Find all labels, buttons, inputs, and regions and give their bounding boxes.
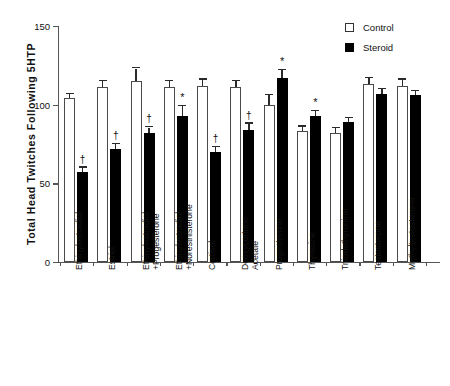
- error-bar-cap: [265, 94, 273, 95]
- error-bar: [102, 81, 103, 87]
- error-bar-cap: [199, 78, 207, 79]
- error-bar-cap: [278, 69, 286, 70]
- category-label: Triiodothyronine: [341, 209, 351, 270]
- x-tick-mark: [393, 262, 394, 266]
- category-label: Estriol: [108, 246, 118, 270]
- error-bar-cap: [145, 126, 153, 127]
- significance-marker: *: [180, 92, 184, 103]
- bar-control: [131, 81, 142, 262]
- error-bar-cap: [178, 105, 186, 106]
- category-label: Thyroxine: [308, 232, 318, 270]
- bar-chart-figure: Total Head Twitches Following 5HTP 05010…: [0, 0, 450, 386]
- error-bar: [248, 124, 249, 130]
- bar-control: [197, 86, 208, 262]
- bar-group: *: [297, 26, 321, 262]
- bar-control: [264, 105, 275, 262]
- category-label: Ethinylestradiol +Noresthisterone: [175, 204, 194, 270]
- chart-legend: Control Steroid: [345, 22, 394, 62]
- significance-marker: †: [213, 134, 219, 144]
- error-bar-cap: [132, 67, 140, 68]
- y-tick-mark: [53, 105, 58, 106]
- error-bar: [148, 128, 149, 134]
- legend-swatch-control: [345, 23, 354, 32]
- error-bar-cap: [345, 117, 353, 118]
- x-tick-mark: [127, 262, 128, 266]
- x-tick-mark: [226, 262, 227, 266]
- y-tick-mark: [53, 262, 58, 263]
- category-label: Ethinylestradiol +Progesterone: [142, 212, 161, 270]
- category-label: Cortisol: [208, 241, 218, 270]
- legend-label-control: Control: [363, 22, 394, 33]
- legend-item-steroid: Steroid: [345, 42, 394, 53]
- error-bar: [69, 94, 70, 98]
- error-bar: [235, 81, 236, 87]
- x-tick-mark: [93, 262, 94, 266]
- category-label: Progesterone: [275, 218, 285, 270]
- error-bar-cap: [212, 146, 220, 147]
- significance-marker: *: [313, 97, 317, 108]
- error-bar-cap: [165, 80, 173, 81]
- error-bar: [402, 80, 403, 86]
- error-bar: [315, 111, 316, 116]
- error-bar: [202, 80, 203, 86]
- y-axis-title: Total Head Twitches Following 5HTP: [25, 19, 37, 269]
- significance-marker: †: [80, 155, 86, 165]
- bar-control: [97, 87, 108, 262]
- x-tick-mark: [60, 262, 61, 266]
- bar-group: †: [197, 26, 221, 262]
- error-bar: [415, 91, 416, 95]
- category-label: Testosterone: [374, 221, 384, 270]
- error-bar-cap: [112, 143, 120, 144]
- error-bar-cap: [411, 90, 419, 91]
- x-tick-mark: [293, 262, 294, 266]
- error-bar: [368, 78, 369, 84]
- y-tick-label: 100: [34, 99, 50, 110]
- category-label: Deoxycortone Acetate: [241, 217, 260, 270]
- y-tick-label: 0: [45, 257, 50, 268]
- error-bar: [335, 128, 336, 133]
- error-bar-cap: [365, 77, 373, 78]
- error-bar: [169, 81, 170, 87]
- error-bar: [215, 147, 216, 152]
- error-bar-cap: [398, 78, 406, 79]
- error-bar: [268, 95, 269, 104]
- x-tick-mark: [359, 262, 360, 266]
- significance-marker: †: [246, 111, 252, 121]
- legend-swatch-steroid: [345, 43, 354, 52]
- category-label: Methyltestosterone: [408, 197, 418, 270]
- error-bar: [135, 69, 136, 82]
- error-bar-cap: [66, 93, 74, 94]
- y-tick-mark: [53, 26, 58, 27]
- error-bar-cap: [311, 110, 319, 111]
- error-bar-cap: [232, 80, 240, 81]
- y-tick-label: 150: [34, 21, 50, 32]
- significance-marker: *: [280, 56, 284, 67]
- legend-label-steroid: Steroid: [363, 42, 393, 53]
- error-bar: [281, 70, 282, 78]
- bar-steroid: †: [110, 149, 121, 262]
- significance-marker: †: [146, 114, 152, 124]
- legend-item-control: Control: [345, 22, 394, 33]
- error-bar-cap: [378, 88, 386, 89]
- y-tick-label: 50: [39, 178, 50, 189]
- error-bar-cap: [298, 125, 306, 126]
- error-bar-cap: [332, 127, 340, 128]
- x-tick-mark: [426, 262, 427, 266]
- y-tick-mark: [53, 183, 58, 184]
- error-bar: [302, 127, 303, 132]
- bar-group: †: [97, 26, 121, 262]
- significance-marker: †: [113, 131, 119, 141]
- error-bar-cap: [99, 80, 107, 81]
- x-tick-mark: [326, 262, 327, 266]
- category-label: Ethinylestradiol: [75, 212, 85, 270]
- y-axis-line: [58, 26, 59, 262]
- error-bar: [115, 144, 116, 149]
- error-bar-cap: [245, 122, 253, 123]
- error-bar: [182, 106, 183, 115]
- error-bar-cap: [79, 166, 87, 167]
- error-bar: [381, 89, 382, 94]
- error-bar: [82, 168, 83, 173]
- error-bar: [348, 118, 349, 122]
